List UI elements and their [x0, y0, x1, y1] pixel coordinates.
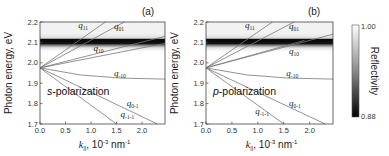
panel-label: (a) [142, 6, 154, 17]
y-axis-label: Photon energy, eV [169, 32, 180, 114]
y-axis-label: Photon energy, eV [3, 32, 14, 114]
x-tick-label: 1.5 [279, 126, 289, 135]
y-tick-label: 2.1 [194, 38, 204, 47]
figure: q11q01q10q-10q0-1q-1-10.00.51.01.52.01.7… [0, 0, 389, 156]
x-tick-label: 1.5 [111, 126, 121, 135]
y-tick-label: 2.2 [28, 18, 38, 27]
x-tick-label: 0.5 [227, 126, 237, 135]
y-tick-label: 1.9 [28, 79, 38, 88]
colorbar-gradient [352, 25, 359, 117]
y-tick-label: 1.7 [194, 120, 204, 129]
panel-a: q11q01q10q-10q0-1q-1-10.00.51.01.52.01.7… [3, 6, 165, 151]
x-axis-label: k||, 10-3 nm-1 [246, 139, 298, 151]
y-tick-label: 2.0 [194, 58, 204, 67]
x-tick-label: 0.5 [60, 126, 70, 135]
panel-label: (b) [308, 6, 320, 17]
x-tick-label: 1.0 [253, 126, 263, 135]
y-tick-label: 1.8 [194, 99, 204, 108]
colorbar: 1.00 0.88 Reflectivity [352, 22, 380, 121]
x-tick-label: 1.0 [86, 126, 96, 135]
y-tick-label: 2.2 [194, 18, 204, 27]
y-tick-label: 1.8 [28, 99, 38, 108]
colorbar-min-label: 0.88 [361, 112, 376, 121]
polarization-annotation: p-polarization [212, 85, 276, 97]
y-tick-label: 2.0 [28, 58, 38, 67]
resonance-band [40, 39, 165, 42]
colorbar-max-label: 1.00 [361, 22, 376, 31]
panel-b: q11q01q10q-10q0-1q-1-10.00.51.01.52.01.7… [169, 6, 333, 151]
y-tick-label: 2.1 [28, 38, 38, 47]
colorbar-title: Reflectivity [369, 47, 380, 95]
x-tick-label: 2.0 [304, 126, 314, 135]
y-tick-label: 1.9 [194, 79, 204, 88]
polarization-annotation: s-polarization [47, 85, 110, 97]
x-axis-label: k||, 10-3 nm-1 [79, 139, 131, 151]
y-tick-label: 1.7 [28, 120, 38, 129]
x-tick-label: 2.0 [137, 126, 147, 135]
